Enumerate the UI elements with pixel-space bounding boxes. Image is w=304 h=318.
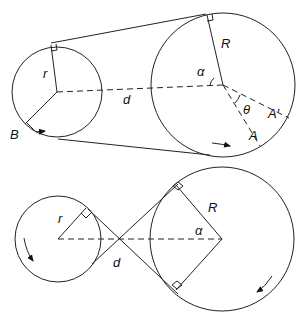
radius-to-B — [25, 92, 57, 124]
label-alpha: α — [197, 64, 205, 79]
belt-drive-diagram: r R d α θ A′ A B r R d α — [0, 0, 304, 318]
crossed-belt-figure: r R d α — [15, 167, 294, 311]
label-A-prime: A′ — [267, 106, 280, 121]
crossed-belt-segment-2 — [92, 184, 178, 264]
label-alpha: α — [195, 223, 203, 238]
right-angle-mark — [81, 213, 91, 218]
label-d: d — [113, 255, 121, 270]
alpha-arc — [210, 78, 214, 85]
large-radius-line-lower — [176, 239, 222, 290]
label-R: R — [221, 36, 230, 51]
right-angle-mark — [173, 182, 183, 190]
label-A: A — [248, 128, 258, 143]
label-R: R — [208, 200, 217, 215]
label-B: B — [10, 127, 19, 142]
upper-belt-segment — [51, 14, 206, 43]
label-r: r — [58, 211, 63, 226]
crossed-belt-segment-1 — [88, 209, 178, 294]
label-d: d — [123, 92, 131, 107]
rotation-arrow-small — [24, 238, 33, 261]
label-r: r — [43, 66, 48, 81]
theta-arc — [235, 95, 240, 103]
open-belt-figure: r R d α θ A′ A B — [10, 13, 295, 157]
rotation-arrow-large — [212, 143, 230, 146]
label-theta: θ — [243, 102, 250, 117]
rotation-arrow-large — [257, 276, 272, 292]
small-radius-line — [51, 45, 57, 92]
center-line — [57, 85, 223, 92]
